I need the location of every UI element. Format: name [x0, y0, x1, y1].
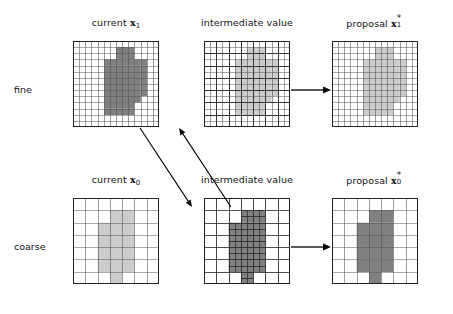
- grid-canvas: [73, 198, 159, 284]
- symbol-subsup: 0*: [397, 174, 404, 184]
- arrow-coarse-intermediate-to-proposal: [291, 244, 331, 251]
- grid-canvas: [204, 198, 290, 284]
- row-label-coarse: coarse: [14, 241, 46, 252]
- figure-canvas: fine coarse current x1 intermediate valu…: [0, 0, 453, 314]
- arrow-shaft: [183, 134, 231, 207]
- grid-panel-fine-proposal: [332, 41, 418, 127]
- grid-panel-fine-intermediate: [204, 41, 290, 127]
- column-label-current-coarse: current x0: [92, 174, 140, 187]
- symbol-subsup: 1*: [397, 17, 404, 27]
- symbol-subscript: 0: [136, 179, 141, 187]
- grid-canvas: [332, 41, 418, 127]
- grid-panel-coarse-current: [73, 198, 159, 284]
- column-label-text: proposal: [346, 18, 388, 29]
- symbol-superscript: *: [397, 13, 402, 23]
- grid-panel-coarse-proposal: [332, 198, 418, 284]
- arrow-coarse-proposal-to-fine-intermediate: [179, 128, 231, 207]
- grid-canvas: [204, 41, 290, 127]
- grid-panel-coarse-intermediate: [204, 198, 290, 284]
- symbol-subscript: 1: [136, 22, 141, 30]
- arrow-fine-intermediate-to-proposal: [291, 87, 331, 94]
- column-label-proposal-coarse: proposal x0*: [346, 174, 403, 186]
- arrow-head: [323, 244, 331, 251]
- arrow-head: [323, 87, 331, 94]
- column-label-text: current: [92, 174, 127, 185]
- column-label-intermediate-coarse: intermediate value: [201, 174, 293, 185]
- arrow-head: [179, 128, 185, 135]
- grid-canvas: [332, 198, 418, 284]
- row-label-fine: fine: [14, 84, 32, 95]
- arrow-head: [186, 200, 192, 207]
- arrow-fine-current-to-coarse-current: [140, 128, 192, 207]
- grid-panel-fine-current: [73, 41, 159, 127]
- column-label-text: intermediate value: [201, 17, 293, 28]
- grid-canvas: [73, 41, 159, 127]
- column-label-text: intermediate value: [201, 174, 293, 185]
- column-label-current-fine: current x1: [92, 17, 140, 30]
- arrow-shaft: [140, 128, 188, 201]
- column-label-proposal-fine: proposal x1*: [346, 17, 403, 29]
- column-label-text: current: [92, 17, 127, 28]
- column-label-intermediate-fine: intermediate value: [201, 17, 293, 28]
- column-label-text: proposal: [346, 175, 388, 186]
- symbol-superscript: *: [397, 170, 402, 180]
